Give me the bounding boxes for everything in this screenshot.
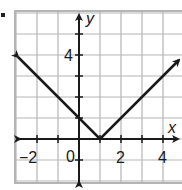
- x-tick-label-2: 2: [116, 149, 125, 166]
- x-axis-label: x: [167, 119, 177, 136]
- x-tick-label-0: 0: [66, 148, 75, 165]
- x-tick-label-4: 4: [158, 149, 167, 166]
- x-tick-label-neg2: −2: [19, 149, 37, 166]
- grid: [15, 11, 182, 183]
- absolute-value-graph: y x 4 −2 0 2 4: [0, 0, 182, 190]
- y-tick-label-4: 4: [64, 47, 73, 64]
- y-axis-label: y: [85, 10, 95, 27]
